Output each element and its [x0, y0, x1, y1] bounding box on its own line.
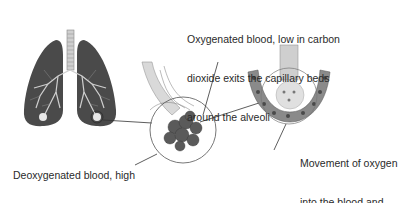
label-diffusion: Movement of oxygen into the blood and ca… [300, 131, 406, 203]
label-line: Deoxygenated blood, high [13, 169, 135, 182]
lungs-illustration [24, 30, 116, 126]
label-line: Oxygenated blood, low in carbon [187, 33, 340, 46]
label-line: dioxide exits the capillary beds [187, 72, 340, 85]
connector-line [135, 154, 157, 165]
label-line: Movement of oxygen [300, 157, 406, 170]
label-deoxygenated-blood: Deoxygenated blood, high in carbon dioxi… [13, 143, 135, 203]
label-line: into the blood and [300, 196, 406, 203]
label-oxygenated-blood: Oxygenated blood, low in carbon dioxide … [187, 7, 340, 137]
label-line: around the alveoli [187, 111, 340, 124]
